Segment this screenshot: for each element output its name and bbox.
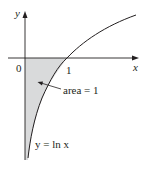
x-axis-label: x <box>132 61 138 73</box>
y-axis-label: y <box>14 7 20 19</box>
y-axis-arrow-icon <box>23 11 28 18</box>
ln-area-diagram: y 0 1 x area = 1 y = ln x <box>0 0 150 171</box>
x-tick-label-1: 1 <box>66 64 72 76</box>
origin-label: 0 <box>16 62 22 74</box>
area-annotation: area = 1 <box>63 84 99 96</box>
curve-equation-label: y = ln x <box>35 138 70 150</box>
x-axis-arrow-icon <box>132 56 139 61</box>
